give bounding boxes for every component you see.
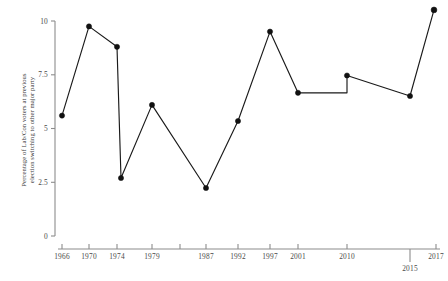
- x-tick-label-1974: 1974: [109, 252, 125, 261]
- data-point-2015: [407, 93, 412, 98]
- y-tick-label-5: 5: [44, 124, 48, 133]
- data-point-2010: [344, 73, 349, 78]
- data-point-1997: [267, 29, 272, 34]
- y-axis-title-line2: election switching to other major party: [28, 76, 35, 183]
- series-line-vote-switching: [62, 10, 434, 188]
- y-axis-title-line1: Percentage of Lab/Con voters at previous: [20, 73, 27, 187]
- x-tick-label-2010: 2010: [339, 252, 355, 261]
- data-point-1992: [235, 118, 240, 123]
- x-tick-label-1966: 1966: [54, 252, 70, 261]
- x-tick-label-1970: 1970: [81, 252, 97, 261]
- x-tick-label-2001: 2001: [290, 252, 306, 261]
- y-axis-title: Percentage of Lab/Con voters at previous…: [20, 73, 35, 187]
- data-point-1987: [203, 185, 208, 190]
- y-tick-label-7-5: 7.5: [38, 70, 48, 79]
- chart-container: 10 7.5 5 2.5 0 Percentage of Lab/Con vot…: [0, 0, 448, 281]
- y-tick-label-2-5: 2.5: [38, 178, 48, 187]
- x-tick-label-1997: 1997: [262, 252, 278, 261]
- y-tick-label-0: 0: [44, 232, 48, 241]
- data-series: [59, 7, 437, 191]
- x-tick-label-1987: 1987: [198, 252, 214, 261]
- x-axis: 1966 1970 1974 1979 1987 1992 1997 2001 …: [54, 244, 444, 273]
- data-point-2017: [431, 7, 437, 13]
- data-point-1974-oct: [118, 175, 123, 180]
- y-tick-label-10: 10: [40, 17, 48, 26]
- x-tick-label-2017: 2017: [428, 252, 444, 261]
- x-tick-label-2015: 2015: [402, 264, 418, 273]
- line-chart: 10 7.5 5 2.5 0 Percentage of Lab/Con vot…: [0, 0, 448, 281]
- data-point-1974-feb: [114, 44, 119, 49]
- x-tick-label-1979: 1979: [144, 252, 160, 261]
- y-axis: 10 7.5 5 2.5 0: [38, 17, 55, 241]
- x-tick-label-1992: 1992: [230, 252, 246, 261]
- data-point-1966: [59, 113, 64, 118]
- data-point-1970: [86, 24, 91, 29]
- data-point-2001: [295, 90, 300, 95]
- data-point-1979: [149, 102, 154, 107]
